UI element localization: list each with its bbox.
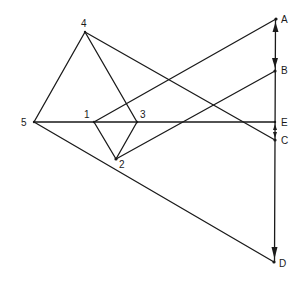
arrow-down-at-C-icon xyxy=(273,132,277,138)
edge-1-A xyxy=(94,19,276,122)
arrow-up-at-A-icon xyxy=(273,22,279,32)
label-C: C xyxy=(281,135,288,146)
point-C xyxy=(273,138,276,141)
label-4: 4 xyxy=(81,18,87,29)
point-A xyxy=(274,17,277,20)
point-3 xyxy=(136,121,138,123)
geometric-diagram: A B E C D 1 2 3 4 5 xyxy=(0,0,304,282)
point-1 xyxy=(93,121,95,123)
arrow-down-at-D-icon xyxy=(272,247,278,259)
label-A: A xyxy=(281,14,288,25)
point-B xyxy=(273,69,276,72)
point-D xyxy=(272,260,275,263)
edge-4-3 xyxy=(85,32,137,122)
edge-5-D xyxy=(34,122,274,262)
label-1: 1 xyxy=(84,109,90,120)
edge-1-2 xyxy=(94,122,116,159)
label-3: 3 xyxy=(140,109,146,120)
label-5: 5 xyxy=(21,117,27,128)
label-E: E xyxy=(281,117,288,128)
point-2 xyxy=(114,157,117,160)
point-E xyxy=(274,121,276,123)
arrow-up-at-E-icon xyxy=(273,124,277,130)
label-B: B xyxy=(281,65,288,76)
arrow-down-at-B-icon xyxy=(272,58,278,68)
label-D: D xyxy=(279,258,286,269)
edge-4-5 xyxy=(34,32,85,122)
label-2: 2 xyxy=(119,159,125,170)
point-4 xyxy=(84,31,86,33)
point-5 xyxy=(33,121,35,123)
